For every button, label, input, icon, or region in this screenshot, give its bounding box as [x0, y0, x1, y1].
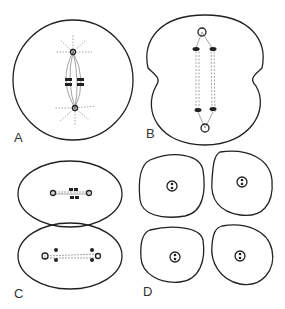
panel-label-c: C — [14, 286, 23, 301]
panel-b-cell — [147, 15, 263, 145]
panel-c-cells — [18, 161, 122, 289]
panel-label-b: B — [146, 126, 155, 141]
panel-a-cell — [13, 20, 133, 140]
panel-d-cells — [139, 151, 272, 284]
cell-division-diagram — [0, 0, 285, 309]
panel-label-a: A — [14, 130, 23, 145]
panel-label-d: D — [143, 284, 152, 299]
